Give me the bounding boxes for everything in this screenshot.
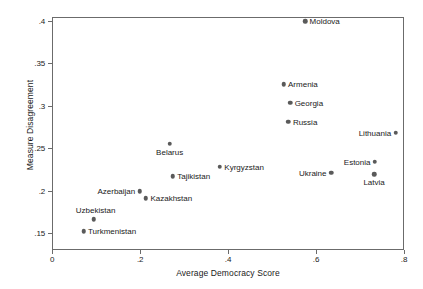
data-point-marker <box>372 172 377 177</box>
data-point-marker <box>91 217 96 222</box>
x-tick-mark <box>140 250 141 254</box>
y-tick-3: .3 <box>0 101 52 111</box>
data-point-marker <box>303 19 308 24</box>
y-tick-0: .15 <box>0 229 52 239</box>
data-point-label: Russia <box>293 117 317 126</box>
data-point-label: Armenia <box>288 80 318 89</box>
data-point-label: Tajikistan <box>177 172 210 181</box>
y-tick-label: .3 <box>39 102 49 111</box>
data-point-label: Azerbaijan <box>97 187 135 196</box>
x-tick-2: .4 <box>213 250 243 264</box>
data-point-label: Kazakhstan <box>150 194 192 203</box>
data-point-label: Belarus <box>156 148 183 157</box>
y-tick-2: .25 <box>0 144 52 154</box>
x-tick-label: .8 <box>389 255 419 264</box>
scatter-chart: Measure Disagreement .15.2.25.3.35.4 Mol… <box>0 0 423 289</box>
x-tick-label: .6 <box>301 255 331 264</box>
data-point-label: Moldova <box>310 17 340 26</box>
data-point-marker <box>144 196 149 201</box>
y-tick-label: .2 <box>39 187 49 196</box>
data-point-label: Latvia <box>363 178 384 187</box>
x-tick-0: 0 <box>37 250 67 264</box>
x-tick-mark <box>52 250 53 254</box>
data-point-marker <box>171 174 176 179</box>
data-point-label: Ukraine <box>299 168 327 177</box>
x-tick-mark <box>228 250 229 254</box>
data-point-marker <box>286 119 291 124</box>
data-point-label: Estonia <box>344 157 371 166</box>
x-axis-label: Average Democracy Score <box>52 268 404 278</box>
x-tick-mark <box>404 250 405 254</box>
x-tick-1: .2 <box>125 250 155 264</box>
data-point-marker <box>167 141 172 146</box>
data-point-label: Uzbekistan <box>76 206 116 215</box>
y-tick-1: .2 <box>0 186 52 196</box>
x-tick-mark <box>316 250 317 254</box>
data-point-label: Turkmenistan <box>88 227 136 236</box>
x-tick-4: .8 <box>389 250 419 264</box>
y-tick-4: .35 <box>0 59 52 69</box>
y-tick-label: .4 <box>39 17 49 26</box>
x-tick-label: 0 <box>37 255 67 264</box>
x-tick-label: .2 <box>125 255 155 264</box>
y-tick-label: .15 <box>34 229 48 238</box>
data-point-label: Georgia <box>295 98 323 107</box>
data-point-marker <box>373 159 378 164</box>
data-point-marker <box>288 101 293 106</box>
data-point-marker <box>218 164 223 169</box>
y-tick-label: .25 <box>34 144 48 153</box>
y-tick-label: .35 <box>34 59 48 68</box>
data-point-marker <box>81 229 86 234</box>
data-point-marker <box>281 82 286 87</box>
data-point-marker <box>329 170 334 175</box>
data-point-marker <box>393 130 398 135</box>
y-tick-5: .4 <box>0 16 52 26</box>
x-tick-label: .4 <box>213 255 243 264</box>
data-point-marker <box>138 189 143 194</box>
data-point-label: Kyrgyzstan <box>224 162 264 171</box>
data-point-label: Lithuania <box>359 128 391 137</box>
x-tick-3: .6 <box>301 250 331 264</box>
